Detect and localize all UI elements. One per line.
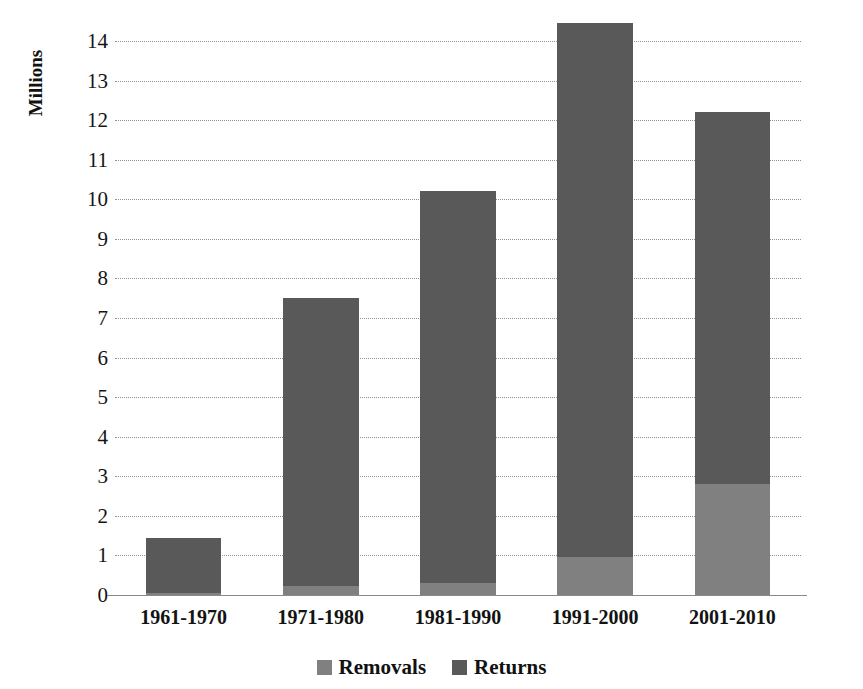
bar-segment-returns[interactable] <box>420 191 495 583</box>
bar-group <box>252 41 389 595</box>
stacked-bar-chart: Millions 14131211109876543210 1961-19701… <box>0 0 863 689</box>
y-axis-tick-label: 4 <box>34 424 108 449</box>
bar-stack[interactable] <box>283 298 358 595</box>
y-axis-tick-label: 5 <box>34 385 108 410</box>
y-axis-tick-labels: 14131211109876543210 <box>0 41 108 595</box>
bar-group <box>664 41 801 595</box>
y-axis-tick-label: 3 <box>34 464 108 489</box>
x-axis-tick-label: 1981-1990 <box>389 606 526 629</box>
legend-label: Returns <box>474 655 546 680</box>
bar-stack[interactable] <box>695 112 770 595</box>
y-axis-tick-label: 2 <box>34 503 108 528</box>
bar-segment-removals[interactable] <box>557 557 632 595</box>
bar-segment-removals[interactable] <box>420 583 495 595</box>
x-axis-tick-label: 1991-2000 <box>527 606 664 629</box>
y-axis-tick-label: 11 <box>34 147 108 172</box>
y-axis-tick-label: 9 <box>34 226 108 251</box>
bar-stack[interactable] <box>146 538 221 595</box>
legend-item-returns[interactable]: Returns <box>452 655 546 680</box>
legend-swatch-icon <box>317 660 332 675</box>
y-axis-tick-label: 12 <box>34 108 108 133</box>
bar-segment-returns[interactable] <box>283 298 358 585</box>
x-axis-tick-label: 1971-1980 <box>252 606 389 629</box>
bar-segment-returns[interactable] <box>146 538 221 593</box>
bars-layer <box>115 41 801 595</box>
y-axis-tick-label: 8 <box>34 266 108 291</box>
y-axis-tick-label: 13 <box>34 68 108 93</box>
bar-segment-returns[interactable] <box>695 112 770 484</box>
x-axis-tick-label: 1961-1970 <box>115 606 252 629</box>
bar-group <box>389 41 526 595</box>
bar-group <box>527 41 664 595</box>
chart-legend: RemovalsReturns <box>0 655 863 680</box>
bar-stack[interactable] <box>420 191 495 595</box>
legend-swatch-icon <box>452 660 467 675</box>
y-axis-tick-label: 6 <box>34 345 108 370</box>
y-axis-tick-label: 14 <box>34 29 108 54</box>
y-axis-tick-label: 0 <box>34 583 108 608</box>
y-axis-tick-label: 10 <box>34 187 108 212</box>
bar-segment-removals[interactable] <box>283 586 358 595</box>
y-axis-tick-label: 1 <box>34 543 108 568</box>
bar-stack[interactable] <box>557 23 632 595</box>
bar-group <box>115 41 252 595</box>
legend-label: Removals <box>339 655 427 680</box>
x-axis-tick-label: 2001-2010 <box>664 606 801 629</box>
bar-segment-removals[interactable] <box>695 484 770 595</box>
bar-segment-returns[interactable] <box>557 23 632 557</box>
x-axis-line <box>107 595 807 596</box>
x-axis-tick-labels: 1961-19701971-19801981-19901991-20002001… <box>115 606 801 640</box>
legend-item-removals[interactable]: Removals <box>317 655 427 680</box>
y-axis-tick-label: 7 <box>34 306 108 331</box>
